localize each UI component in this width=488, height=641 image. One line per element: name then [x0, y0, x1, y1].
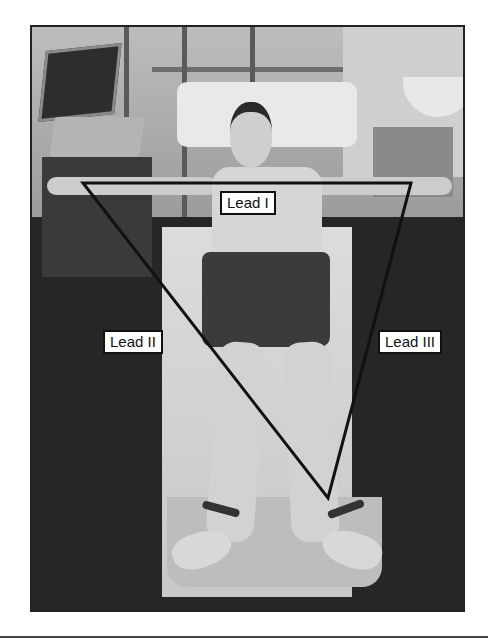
- photo-frame: [30, 25, 465, 612]
- lead-3-label: Lead III: [378, 330, 442, 354]
- bottom-rule: [0, 636, 488, 638]
- ultrasound-machine-keyboard: [49, 117, 145, 157]
- shorts: [202, 252, 330, 347]
- left-arm-of-subject: [312, 177, 452, 195]
- equipment-cart: [42, 157, 152, 277]
- lead-1-label: Lead I: [220, 191, 276, 215]
- ultrasound-machine-screen: [38, 43, 121, 122]
- lead-2-label: Lead II: [103, 330, 163, 354]
- right-arm-of-subject: [47, 177, 217, 195]
- head: [230, 102, 272, 167]
